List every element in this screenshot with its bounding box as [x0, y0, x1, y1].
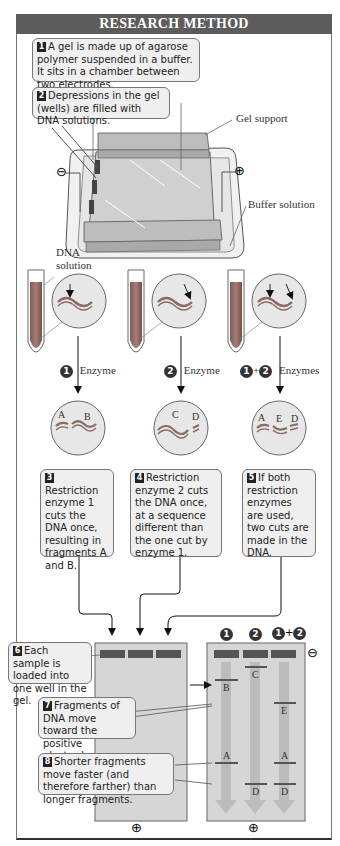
- lane-1-header: 1: [220, 627, 233, 641]
- step-number: 3: [45, 473, 54, 483]
- enzyme-1-badge: 1: [240, 365, 253, 378]
- step-5-callout: 5If both restriction enzymes are used, t…: [242, 469, 316, 557]
- fragment-d-label: D: [192, 411, 199, 422]
- fragment-d-label: D: [291, 413, 298, 424]
- enzyme-label-1: 1 Enzyme: [60, 364, 116, 378]
- enzyme-label-3: 1+2 Enzymes: [240, 364, 319, 378]
- dna-solution-label: DNA solution: [56, 246, 91, 272]
- step-number: 5: [247, 473, 256, 483]
- step-number: 4: [135, 473, 144, 483]
- positive-electrode-icon: ⊕: [234, 163, 245, 178]
- lane-3-header: 1+2: [272, 627, 306, 640]
- buffer-solution-label: Buffer solution: [248, 198, 315, 210]
- fragment-c-label: C: [172, 409, 179, 420]
- step-4-callout: 4Restriction enzyme 2 cuts the DNA once,…: [130, 469, 222, 557]
- band-d-label: D: [252, 786, 259, 797]
- band-e-label: E: [281, 705, 287, 716]
- loading-arrows: [79, 557, 281, 634]
- step-8-callout: 8Shorter fragments move faster (and ther…: [38, 753, 174, 795]
- fragment-b-label: B: [84, 411, 91, 422]
- step-number: 6: [13, 646, 22, 656]
- step-number: 2: [37, 91, 46, 101]
- enzyme-2-badge: 2: [259, 365, 272, 378]
- step-number: 7: [43, 701, 52, 711]
- lane-2-header: 2: [249, 627, 262, 641]
- band-a-label: A: [223, 750, 230, 761]
- band-c-label: C: [252, 669, 259, 680]
- enzyme-1-badge: 1: [272, 627, 285, 640]
- gel-support-label: Gel support: [236, 112, 288, 124]
- step-6-callout: 6Each sample is loaded into one well in …: [8, 642, 92, 684]
- fragment-e-label: E: [276, 413, 282, 424]
- band-b-label: B: [223, 682, 230, 693]
- step-text: Restriction enzyme 2 cuts the DNA once, …: [135, 472, 208, 558]
- enzyme-2-badge: 2: [293, 627, 306, 640]
- positive-electrode-icon: ⊕: [248, 820, 259, 835]
- enzyme-1-badge: 1: [220, 628, 233, 641]
- step-7-callout: 7Fragments of DNA move toward the positi…: [38, 697, 136, 739]
- dna-tubes: [28, 270, 306, 455]
- enzyme-2-badge: 2: [164, 365, 177, 378]
- step-3-callout: 3Restriction enzyme 1 cuts the DNA once,…: [40, 469, 114, 557]
- fragment-a-label: A: [258, 412, 265, 423]
- step-text: If both restriction enzymes are used, tw…: [247, 472, 309, 558]
- negative-electrode-icon: ⊖: [307, 645, 318, 660]
- step-number: 8: [43, 757, 52, 767]
- band-d-label: D: [281, 786, 288, 797]
- enzyme-1-badge: 1: [60, 365, 73, 378]
- negative-electrode-icon: ⊖: [56, 164, 67, 179]
- enzyme-2-badge: 2: [249, 628, 262, 641]
- step-text: Restriction enzyme 1 cuts the DNA once, …: [45, 485, 107, 571]
- step-1-callout: 1A gel is made up of agarose polymer sus…: [32, 38, 200, 82]
- step-2-callout: 2Depressions in the gel (wells) are fill…: [32, 87, 170, 119]
- positive-electrode-icon: ⊕: [131, 820, 142, 835]
- fragment-a-label: A: [58, 409, 65, 420]
- step-number: 1: [37, 42, 46, 52]
- enzyme-label-2: 2 Enzyme: [164, 364, 220, 378]
- research-method-figure: RESEARCH METHOD: [0, 0, 340, 846]
- band-a-label: A: [281, 750, 288, 761]
